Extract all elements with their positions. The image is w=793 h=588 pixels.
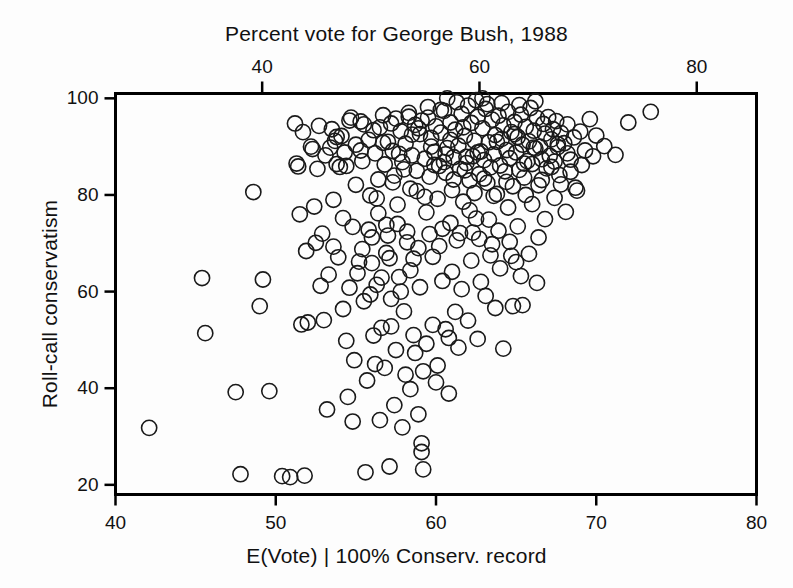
data-point — [307, 199, 322, 214]
data-point — [408, 345, 423, 360]
top-tick-label-60: 60 — [469, 56, 490, 78]
data-point — [563, 164, 578, 179]
data-point — [493, 261, 508, 276]
x-tick-label-50: 50 — [265, 512, 286, 534]
data-point — [451, 340, 466, 355]
data-point — [348, 177, 363, 192]
data-point — [142, 420, 157, 435]
data-point — [228, 384, 243, 399]
data-point — [395, 420, 410, 435]
data-point — [430, 358, 445, 373]
data-point — [326, 192, 341, 207]
data-point — [411, 407, 426, 422]
data-point — [512, 98, 527, 113]
plot-canvas — [0, 0, 793, 588]
data-point — [553, 177, 568, 192]
y-tick-label-80: 80 — [44, 184, 99, 206]
data-point — [435, 273, 450, 288]
data-point — [454, 282, 469, 297]
data-point — [513, 269, 528, 284]
data-point — [448, 304, 463, 319]
data-point — [419, 205, 434, 220]
data-point — [368, 356, 383, 371]
data-point — [531, 178, 546, 193]
data-point — [484, 237, 499, 252]
data-point — [441, 386, 456, 401]
data-point — [194, 270, 209, 285]
data-point — [319, 402, 334, 417]
data-point — [414, 444, 429, 459]
data-point — [347, 353, 362, 368]
data-point — [444, 183, 459, 198]
data-point — [379, 245, 394, 260]
data-point — [252, 298, 267, 313]
data-point — [329, 156, 344, 171]
scatter-plot-figure: Percent vote for George Bush, 1988 E(Vot… — [0, 0, 793, 588]
data-point — [382, 251, 397, 266]
data-point — [537, 212, 552, 227]
data-point — [529, 275, 544, 290]
data-point — [295, 125, 310, 140]
data-point — [438, 322, 453, 337]
data-point — [384, 291, 399, 306]
data-point — [515, 298, 530, 313]
data-point — [643, 104, 658, 119]
data-point — [371, 206, 386, 221]
data-point — [403, 382, 418, 397]
axis-frame — [116, 94, 757, 495]
data-point — [292, 207, 307, 222]
data-point — [416, 462, 431, 477]
data-point — [340, 389, 355, 404]
data-point — [387, 398, 402, 413]
data-point — [473, 274, 488, 289]
data-point — [467, 185, 482, 200]
data-point — [233, 467, 248, 482]
data-point — [382, 459, 397, 474]
data-point — [608, 147, 623, 162]
data-point — [444, 264, 459, 279]
data-point — [335, 301, 350, 316]
data-point — [335, 211, 350, 226]
data-point — [321, 267, 336, 282]
data-point — [390, 197, 405, 212]
x-tick-label-40: 40 — [105, 512, 126, 534]
data-point — [297, 468, 312, 483]
top-tick-label-80: 80 — [686, 56, 707, 78]
data-point — [246, 184, 261, 199]
data-point — [358, 465, 373, 480]
data-points-group — [142, 91, 659, 485]
data-point — [287, 116, 302, 131]
y-tick-label-40: 40 — [44, 377, 99, 399]
data-point — [345, 414, 360, 429]
data-point — [262, 384, 277, 399]
data-point — [316, 312, 331, 327]
data-point — [388, 342, 403, 357]
data-point — [359, 373, 374, 388]
data-point — [255, 272, 270, 287]
data-point — [416, 364, 431, 379]
data-point — [441, 330, 456, 345]
data-point — [412, 280, 427, 295]
data-point — [371, 172, 386, 187]
data-point — [496, 341, 511, 356]
data-point — [510, 219, 525, 234]
data-point — [488, 300, 503, 315]
data-point — [414, 436, 429, 451]
data-point — [501, 200, 516, 215]
data-point — [393, 284, 408, 299]
y-tick-label-60: 60 — [44, 281, 99, 303]
data-point — [476, 171, 491, 186]
top-tick-label-40: 40 — [252, 56, 273, 78]
data-point — [313, 278, 328, 293]
data-point — [198, 326, 213, 341]
x-tick-label-80: 80 — [746, 512, 767, 534]
data-point — [299, 243, 314, 258]
data-point — [342, 280, 357, 295]
data-point — [372, 413, 387, 428]
data-point — [380, 228, 395, 243]
data-point — [396, 304, 411, 319]
y-tick-label-20: 20 — [44, 474, 99, 496]
data-point — [464, 253, 479, 268]
data-point — [428, 375, 443, 390]
data-point — [345, 219, 360, 234]
